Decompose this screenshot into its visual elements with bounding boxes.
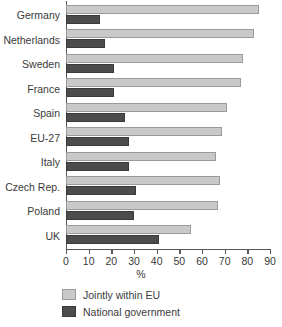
x-tick-label: 30	[128, 255, 140, 267]
legend-label: Jointly within EU	[83, 289, 160, 301]
x-tick-label: 40	[151, 255, 163, 267]
x-tick	[134, 250, 135, 254]
x-tick-label: 50	[173, 255, 185, 267]
x-tick	[157, 250, 158, 254]
bar-national-government	[66, 137, 129, 146]
legend-swatch-national-government	[62, 306, 76, 317]
category-label-czech-rep: Czech Rep.	[5, 175, 60, 200]
bar-national-government	[66, 211, 134, 220]
bar-group	[66, 52, 270, 77]
category-label-germany: Germany	[17, 3, 60, 28]
bar-group	[66, 175, 270, 200]
bar-group	[66, 150, 270, 175]
x-tick-label: 0	[63, 255, 69, 267]
x-tick-label: 60	[196, 255, 208, 267]
legend-label: National government	[83, 306, 180, 318]
legend-item: National government	[62, 304, 272, 319]
x-tick	[202, 250, 203, 254]
x-tick	[66, 250, 67, 254]
x-axis-line	[66, 249, 271, 250]
bar-group	[66, 126, 270, 151]
bar-chart: GermanyNetherlandsSwedenFranceSpainEU-27…	[0, 0, 282, 327]
x-tick-label: 10	[83, 255, 95, 267]
legend-item: Jointly within EU	[62, 287, 272, 302]
category-label-italy: Italy	[41, 150, 60, 175]
bar-jointly-within-eu	[66, 201, 218, 210]
plot-area	[66, 3, 270, 248]
category-label-sweden: Sweden	[22, 52, 60, 77]
bar-jointly-within-eu	[66, 103, 227, 112]
bar-national-government	[66, 88, 114, 97]
category-axis-labels: GermanyNetherlandsSwedenFranceSpainEU-27…	[0, 3, 63, 248]
bar-national-government	[66, 39, 105, 48]
bar-group	[66, 224, 270, 249]
category-label-eu-27: EU-27	[30, 126, 60, 151]
x-axis-title: %	[0, 268, 282, 280]
x-tick-label: 70	[219, 255, 231, 267]
bar-group	[66, 199, 270, 224]
x-tick-label: 80	[241, 255, 253, 267]
bar-group	[66, 101, 270, 126]
bar-group	[66, 28, 270, 53]
bar-group	[66, 3, 270, 28]
category-label-poland: Poland	[27, 199, 60, 224]
x-tick	[89, 250, 90, 254]
bar-jointly-within-eu	[66, 78, 241, 87]
bar-national-government	[66, 186, 136, 195]
bar-national-government	[66, 162, 129, 171]
legend-swatch-jointly-within-eu	[62, 289, 76, 300]
category-label-uk: UK	[45, 224, 60, 249]
bar-jointly-within-eu	[66, 29, 254, 38]
bar-national-government	[66, 15, 100, 24]
bar-national-government	[66, 113, 125, 122]
category-label-netherlands: Netherlands	[3, 28, 60, 53]
chart-legend: Jointly within EUNational government	[62, 287, 272, 321]
category-label-france: France	[27, 77, 60, 102]
x-tick	[247, 250, 248, 254]
x-tick-label: 20	[105, 255, 117, 267]
bar-jointly-within-eu	[66, 225, 191, 234]
bar-jointly-within-eu	[66, 176, 220, 185]
x-tick	[179, 250, 180, 254]
bar-group	[66, 77, 270, 102]
x-tick	[111, 250, 112, 254]
bar-national-government	[66, 235, 159, 244]
bar-jointly-within-eu	[66, 54, 243, 63]
x-tick	[270, 250, 271, 254]
x-tick	[225, 250, 226, 254]
bar-jointly-within-eu	[66, 127, 222, 136]
bar-national-government	[66, 64, 114, 73]
x-tick-label: 90	[264, 255, 276, 267]
bar-jointly-within-eu	[66, 152, 216, 161]
bar-jointly-within-eu	[66, 5, 259, 14]
category-label-spain: Spain	[33, 101, 60, 126]
